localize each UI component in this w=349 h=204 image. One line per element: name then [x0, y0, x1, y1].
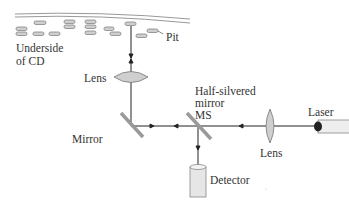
- label-half-silvered: Half-silvered: [195, 85, 256, 97]
- label-mirror: Mirror: [72, 133, 103, 145]
- label-detector: Detector: [210, 174, 250, 186]
- detector-body: [190, 167, 206, 197]
- label-lens-top: Lens: [84, 72, 106, 84]
- detector-top: [190, 165, 206, 170]
- laser-body: [318, 120, 349, 133]
- label-ms: MS: [195, 109, 212, 121]
- lens-top: [114, 72, 148, 83]
- cd-pits: [16, 20, 158, 38]
- laser-aperture: [314, 122, 322, 132]
- mirror: [121, 113, 143, 137]
- lens-right: [266, 109, 274, 143]
- label-mirror-word: mirror: [195, 97, 224, 109]
- label-lens-right: Lens: [260, 147, 282, 159]
- pit-leader-line: [158, 31, 163, 34]
- label-laser: Laser: [308, 106, 334, 118]
- label-underside: Underside: [16, 42, 63, 54]
- label-pit: Pit: [166, 31, 179, 43]
- label-of-cd: of CD: [16, 55, 44, 67]
